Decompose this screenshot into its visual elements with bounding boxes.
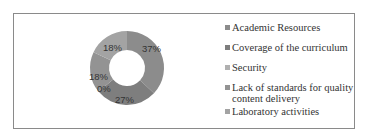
legend-swatch-icon: [225, 65, 230, 70]
legend-label: Lack of standards for quality content de…: [232, 82, 360, 104]
legend-label: Coverage of the curriculum: [232, 42, 348, 53]
label-academic: 37%: [142, 43, 162, 54]
legend-swatch-icon: [225, 45, 230, 50]
legend-swatch-icon: [225, 109, 230, 114]
legend-item: Coverage of the curriculum: [225, 42, 348, 53]
legend-item: Lack of standards for quality content de…: [225, 82, 360, 104]
legend-swatch-icon: [225, 25, 230, 30]
label-coverage: 27%: [115, 94, 135, 105]
legend-item: Academic Resources: [225, 22, 320, 33]
donut-slice: [127, 31, 164, 93]
label-lab: 18%: [103, 42, 123, 53]
legend-item: Security: [225, 62, 267, 73]
label-lack: 18%: [89, 71, 109, 82]
legend-label: Academic Resources: [232, 22, 320, 33]
legend-label: Laboratory activities: [232, 106, 319, 117]
label-security: 0%: [97, 83, 111, 94]
legend-item: Laboratory activities: [225, 106, 319, 117]
legend-swatch-icon: [225, 85, 230, 90]
legend-label: Security: [232, 62, 267, 73]
